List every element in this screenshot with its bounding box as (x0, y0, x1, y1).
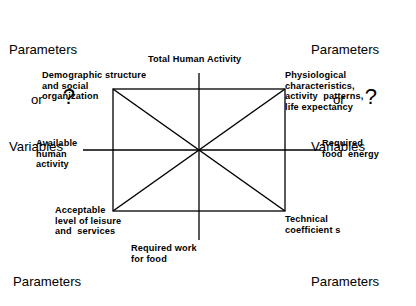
corner-group-bottom-right: Parameters or ? Variables (311, 243, 379, 306)
corner-group-top-right: Parameters or ? Variables (311, 11, 379, 186)
label-required-work-for-food: Required work for food (131, 243, 197, 264)
corner-group-line-parameters: Parameters (311, 42, 379, 58)
corner-group-line-variables: Variables (9, 139, 77, 155)
question-mark-icon: ? (365, 89, 377, 104)
corner-group-line-parameters: Parameters (9, 42, 77, 58)
corner-group-line-or: or (333, 92, 345, 108)
label-total-human-activity: Total Human Activity (148, 54, 241, 65)
label-acceptable-level-of-leisure: Acceptable level of leisure and services (55, 205, 121, 237)
corner-group-line-or-row: or ? (9, 89, 77, 108)
corner-group-top-left: Parameters or ? Variables (9, 11, 77, 186)
corner-group-line-parameters: Parameters (311, 274, 379, 290)
diagram-canvas: Total Human Activity Demographic structu… (0, 0, 416, 306)
corner-group-line-parameters: Parameters (13, 274, 81, 290)
corner-group-line-variables: Variables (311, 139, 379, 155)
label-technical-coefficients: Technical coefficient s (285, 214, 341, 235)
corner-group-line-or-row: or ? (311, 89, 379, 108)
corner-group-line-or: or (31, 92, 43, 108)
question-mark-icon: ? (63, 89, 75, 104)
corner-group-bottom-left: Parameters or ? Variables (13, 243, 81, 306)
